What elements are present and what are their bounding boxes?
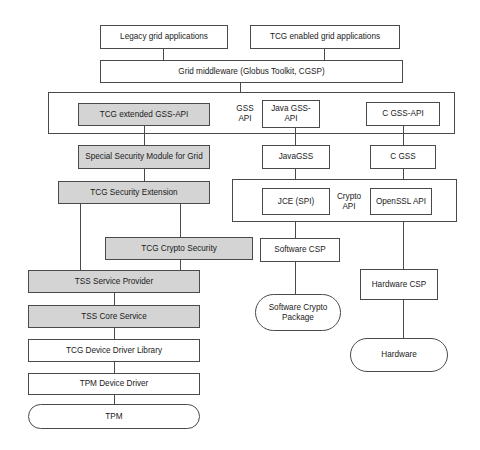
node-software-csp[interactable]: Software CSP xyxy=(260,238,340,262)
node-jce-spi[interactable]: JCE (SPI) xyxy=(262,188,330,215)
connector-jce-to-softwarecsp xyxy=(295,221,296,239)
node-c-gss[interactable]: C GSS xyxy=(370,145,436,169)
node-openssl-api[interactable]: OpenSSL API xyxy=(370,188,432,215)
connector-cgss-to-cryptolayer xyxy=(403,169,404,179)
node-label: Java GSS-API xyxy=(265,104,317,123)
connector-specialmodule-to-tcgsecext xyxy=(144,168,145,182)
node-tcg-crypto-security[interactable]: TCG Crypto Security xyxy=(105,237,253,260)
node-label: TCG enabled grid applications xyxy=(270,32,380,42)
node-tcg-security-extension[interactable]: TCG Security Extension xyxy=(58,181,210,204)
node-tcg-enabled-grid-applications[interactable]: TCG enabled grid applications xyxy=(250,25,400,49)
node-label: Hardware xyxy=(381,350,417,360)
connector-tcgsecext-to-tssprovider xyxy=(80,204,81,271)
connector-tcgextgss-to-specialmodule xyxy=(144,126,145,145)
node-tcg-device-driver-library[interactable]: TCG Device Driver Library xyxy=(28,339,200,362)
connector-middleware-to-gsslayer xyxy=(240,83,241,93)
node-tcg-extended-gss-api[interactable]: TCG extended GSS-API xyxy=(78,103,210,126)
node-label: TSS Core Service xyxy=(81,312,147,322)
gss-api-label-text: GSS API xyxy=(230,104,260,123)
node-hardware-csp[interactable]: Hardware CSP xyxy=(360,269,438,300)
node-label: TSS Service Provider xyxy=(75,277,153,287)
connector-hardwarecsp-to-hardware xyxy=(403,300,404,338)
node-tpm-device-driver[interactable]: TPM Device Driver xyxy=(28,373,200,395)
node-label: Software Crypto Package xyxy=(258,303,338,322)
connector-devicedriverlib-to-tpmdrv xyxy=(114,362,115,373)
node-label: TPM xyxy=(105,412,122,422)
connector-tcgsecext-to-tcgcrypto xyxy=(180,204,181,238)
node-label: TPM Device Driver xyxy=(80,379,149,389)
architecture-diagram: Legacy grid applications TCG enabled gri… xyxy=(0,0,480,450)
node-label: JCE (SPI) xyxy=(278,197,314,207)
node-label: C GSS-API xyxy=(382,109,423,119)
node-grid-middleware[interactable]: Grid middleware (Globus Toolkit, CGSP) xyxy=(100,60,403,83)
node-java-gss-api[interactable]: Java GSS-API xyxy=(262,100,320,128)
node-tss-service-provider[interactable]: TSS Service Provider xyxy=(28,270,200,293)
node-label: Software CSP xyxy=(274,245,325,255)
node-label: JavaGSS xyxy=(279,152,314,162)
node-legacy-grid-applications[interactable]: Legacy grid applications xyxy=(100,25,228,49)
node-label: TCG Crypto Security xyxy=(141,244,217,254)
connector-javagssapi-to-javagss xyxy=(295,128,296,145)
node-label: TCG extended GSS-API xyxy=(100,110,189,120)
node-special-security-module-for-grid[interactable]: Special Security Module for Grid xyxy=(78,145,210,169)
connector-tsscore-to-devicedriverlib xyxy=(114,328,115,339)
connector-softwarecsp-to-cryptopkg xyxy=(295,262,296,294)
node-tpm[interactable]: TPM xyxy=(28,404,200,429)
node-label: Hardware CSP xyxy=(372,280,427,290)
connector-cgssapi-to-cgss xyxy=(403,126,404,145)
crypto-api-layer-label: Crypto API xyxy=(332,188,366,215)
node-label: TCG Security Extension xyxy=(90,188,177,198)
node-hardware[interactable]: Hardware xyxy=(350,338,448,372)
node-label: C GSS xyxy=(390,152,415,162)
node-label: Legacy grid applications xyxy=(120,32,208,42)
node-label: OpenSSL API xyxy=(376,197,426,207)
crypto-api-label-text: Crypto API xyxy=(332,192,366,211)
node-label: Grid middleware (Globus Toolkit, CGSP) xyxy=(178,67,324,77)
node-label: Special Security Module for Grid xyxy=(85,152,202,162)
connector-tpmdrv-to-tpm xyxy=(114,395,115,404)
node-javagss[interactable]: JavaGSS xyxy=(262,145,330,169)
node-label: TCG Device Driver Library xyxy=(66,346,162,356)
connector-openssl-to-hardwarecsp xyxy=(403,221,404,269)
gss-api-layer-label: GSS API xyxy=(230,101,260,127)
connector-javagss-to-cryptolayer xyxy=(295,169,296,179)
node-c-gss-api[interactable]: C GSS-API xyxy=(366,102,440,126)
node-software-crypto-package[interactable]: Software Crypto Package xyxy=(255,294,341,331)
node-tss-core-service[interactable]: TSS Core Service xyxy=(28,305,200,328)
